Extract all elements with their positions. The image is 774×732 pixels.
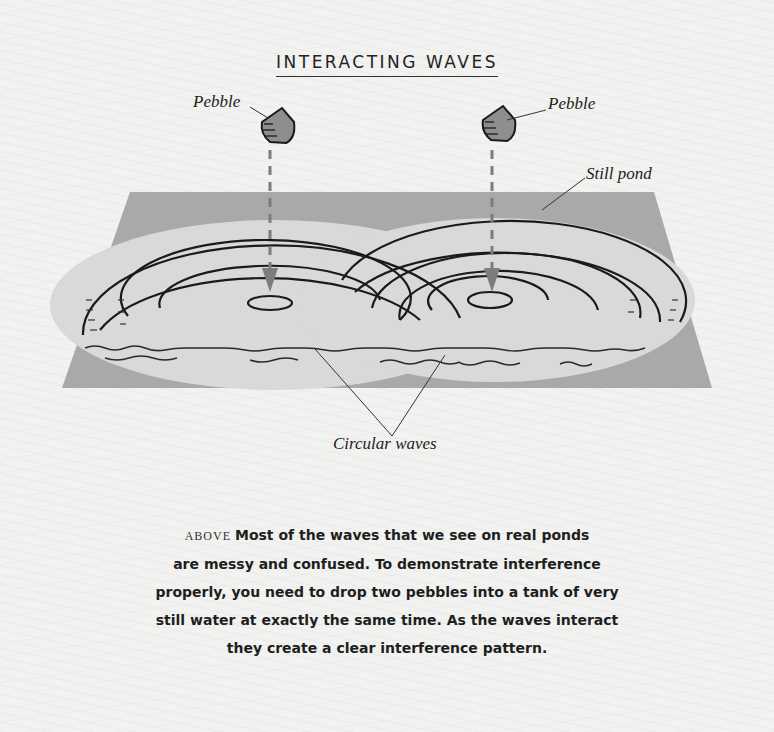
caption-line-2: are messy and confused. To demonstrate i… [120, 550, 654, 578]
label-pebble-right: Pebble [548, 94, 595, 114]
pebble-icon-right [483, 106, 516, 141]
caption-line-1: ABOVEMost of the waves that we see on re… [120, 521, 654, 550]
caption-line-4: still water at exactly the same time. As… [120, 606, 654, 634]
label-pebble-left: Pebble [193, 92, 240, 112]
caption-lead: ABOVE [185, 529, 231, 543]
caption: ABOVEMost of the waves that we see on re… [120, 521, 654, 662]
caption-text-1: Most of the waves that we see on real po… [235, 527, 589, 543]
caption-line-3: properly, you need to drop two pebbles i… [120, 578, 654, 606]
pebble-icon-left [262, 108, 295, 143]
caption-line-5: they create a clear interference pattern… [120, 634, 654, 662]
label-circular-waves: Circular waves [333, 434, 437, 454]
label-still-pond: Still pond [586, 164, 652, 184]
